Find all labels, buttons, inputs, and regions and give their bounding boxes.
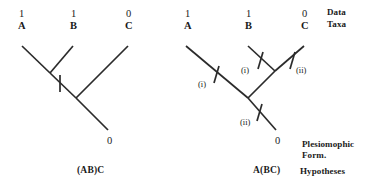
right-root-state: 0 bbox=[275, 135, 280, 146]
left-root-state: 0 bbox=[107, 135, 112, 146]
left-tip-state-C: 0 bbox=[126, 8, 131, 19]
right-step-label-root-stem: (ii) bbox=[240, 118, 250, 127]
left-branch-AB-stem bbox=[50, 73, 76, 98]
right-tickmark-B bbox=[258, 52, 263, 69]
right-tickmark-A bbox=[214, 66, 219, 83]
right-tip-taxon-A: A bbox=[184, 20, 192, 31]
right-tree-tickmarks bbox=[214, 52, 295, 121]
right-tip-taxon-C: C bbox=[301, 20, 309, 31]
right-tip-state-A: 1 bbox=[185, 8, 190, 19]
left-tree-branches bbox=[22, 46, 128, 130]
left-branch-A bbox=[22, 46, 50, 73]
cladogram-figure: 1 A 1 B 0 C 0 (AB)C 1 A 1 B 0 C (i) (i) … bbox=[0, 0, 372, 195]
right-branch-BC-stem bbox=[248, 71, 275, 98]
right-tip-state-C: 0 bbox=[302, 8, 307, 19]
right-tip-taxon-B: B bbox=[245, 20, 252, 31]
right-tickmark-C bbox=[290, 52, 295, 69]
left-branch-B bbox=[50, 46, 73, 73]
row-label-form: Form. bbox=[302, 151, 326, 160]
right-step-label-A: (i) bbox=[198, 80, 206, 89]
left-tip-taxon-B: B bbox=[70, 20, 77, 31]
right-hypothesis-label: A(BC) bbox=[253, 166, 280, 176]
left-tip-taxon-C: C bbox=[125, 20, 133, 31]
row-label-hypotheses: Hypotheses bbox=[300, 167, 345, 176]
left-hypothesis-label: (AB)C bbox=[77, 166, 104, 176]
right-step-label-C: (ii) bbox=[296, 66, 306, 75]
left-branch-root-stem bbox=[76, 98, 108, 130]
right-tip-state-B: 1 bbox=[246, 8, 251, 19]
left-tip-state-A: 1 bbox=[19, 8, 24, 19]
row-label-data: Data bbox=[327, 8, 346, 17]
left-branch-C bbox=[76, 46, 128, 98]
right-branch-root-stem bbox=[248, 98, 276, 130]
right-step-label-B: (i) bbox=[241, 66, 249, 75]
row-label-taxa: Taxa bbox=[327, 20, 346, 29]
row-label-plesiomorphic: Plesiomophic bbox=[302, 140, 354, 149]
left-tip-taxon-A: A bbox=[18, 20, 26, 31]
left-tip-state-B: 1 bbox=[71, 8, 76, 19]
